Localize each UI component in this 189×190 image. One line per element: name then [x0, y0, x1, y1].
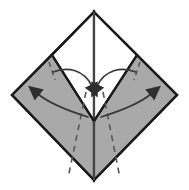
- origami-diagram: [0, 0, 189, 190]
- origami-figure: Origami fold diagram Diamond-shaped pape…: [0, 0, 189, 190]
